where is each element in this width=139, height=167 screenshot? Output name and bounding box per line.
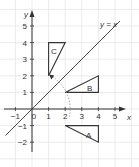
y-tick-label: 5 [23,22,28,31]
x-tick-label: 1 [46,112,51,121]
x-tick-label: 4 [96,112,101,121]
y-axis-arrow-icon [30,10,35,17]
y-tick-label: 4 [23,39,28,48]
rotation-arc [52,77,70,117]
y-tick-label: 3 [23,55,28,64]
x-tick-label: 3 [80,112,85,121]
y-axis-label: y [23,10,29,19]
y-tick-label: −2 [18,138,28,147]
shape-a-label: A [86,131,92,140]
coordinate-diagram: −1012345−2−112345 y = x x y A B C [0,0,139,167]
y-tick-label: −1 [18,122,28,131]
y-tick-label: 2 [23,72,28,81]
x-tick-label: 5 [113,112,118,121]
x-tick-label: −1 [11,112,21,121]
axis-ticks: −1012345−2−112345 [11,22,118,147]
x-axis-label: x [126,113,132,122]
x-tick-label: 2 [63,112,68,121]
shape-c-label: C [51,47,57,56]
x-tick-label: 0 [32,112,37,121]
shape-b-label: B [87,84,92,93]
line-label: y = x [99,20,118,29]
x-axis-arrow-icon [119,107,126,112]
y-tick-label: 1 [23,88,28,97]
